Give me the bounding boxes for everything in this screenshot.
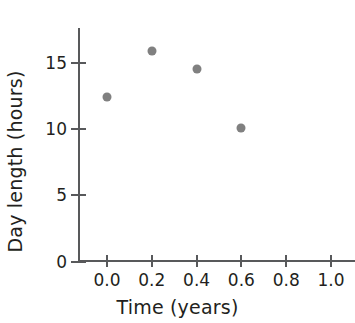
x-axis-tick bbox=[240, 255, 242, 267]
x-axis-title: Time (years) bbox=[0, 296, 355, 318]
x-axis-tick bbox=[285, 255, 287, 267]
y-axis-tick bbox=[71, 128, 86, 130]
y-axis-tick bbox=[71, 261, 86, 263]
y-axis-tick-label: 5 bbox=[56, 187, 67, 204]
y-axis-title: Day length (hours) bbox=[0, 0, 30, 323]
x-axis-line bbox=[78, 260, 355, 262]
y-axis-tick bbox=[71, 194, 86, 196]
x-axis-tick bbox=[196, 255, 198, 267]
data-point bbox=[192, 65, 201, 74]
x-axis-tick-label: 0.0 bbox=[93, 272, 120, 289]
x-axis-tick bbox=[330, 255, 332, 267]
scatter-plot: 051015 0.00.20.40.60.81.0 Time (years) D… bbox=[0, 0, 355, 323]
data-point bbox=[147, 46, 156, 55]
data-point bbox=[237, 123, 246, 132]
y-axis-tick bbox=[71, 62, 86, 64]
x-axis-tick-label: 0.4 bbox=[183, 272, 210, 289]
x-axis-tick bbox=[151, 255, 153, 267]
x-axis-tick-label: 0.8 bbox=[273, 272, 300, 289]
y-axis-tick-label: 0 bbox=[56, 253, 67, 270]
x-axis-tick bbox=[106, 255, 108, 267]
y-axis-tick-label: 10 bbox=[45, 121, 67, 138]
y-axis-tick-label: 15 bbox=[45, 54, 67, 71]
x-axis-tick-label: 0.6 bbox=[228, 272, 255, 289]
x-axis-tick-label: 1.0 bbox=[317, 272, 344, 289]
data-point bbox=[103, 93, 112, 102]
x-axis-tick-label: 0.2 bbox=[138, 272, 165, 289]
